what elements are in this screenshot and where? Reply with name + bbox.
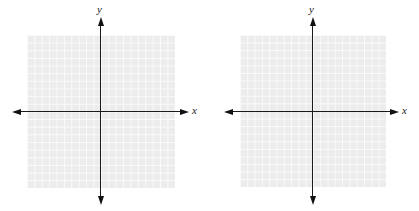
y-axis-label-right: y [309, 4, 314, 15]
y-axis-right [312, 25, 313, 197]
y-axis-up-arrow-icon [310, 17, 316, 26]
x-axis-right-arrow-icon [390, 109, 399, 115]
coordinate-plane-right: x y [0, 0, 419, 211]
x-axis-left-arrow-icon [224, 109, 233, 115]
y-axis-down-arrow-icon [310, 196, 316, 205]
x-axis-label-right: x [402, 105, 407, 116]
